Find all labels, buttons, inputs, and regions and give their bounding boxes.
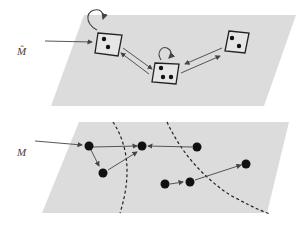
concrete-model-label: M xyxy=(17,146,26,158)
abstraction-diagram xyxy=(0,0,308,226)
state-die-3 xyxy=(225,31,249,53)
abstract-plane xyxy=(51,15,296,106)
abstract-model-label: M̂ xyxy=(17,45,26,57)
concrete-plane xyxy=(42,122,289,213)
